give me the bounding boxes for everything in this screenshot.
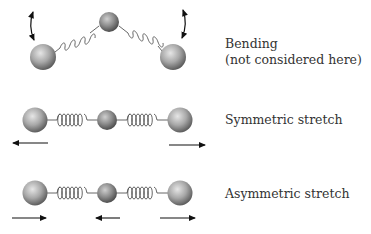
spring-left: [47, 187, 97, 199]
asymmetric-stretch-label: Asymmetric stretch: [225, 186, 349, 202]
bending-label-line1: Bending: [225, 36, 362, 52]
atom-left: [23, 181, 48, 206]
atom-right: [168, 108, 193, 133]
spring-left: [47, 114, 97, 126]
atom-center: [97, 110, 117, 130]
spring-left: [55, 26, 99, 52]
atom-right: [168, 181, 193, 206]
bending-label-line2: (not considered here): [225, 52, 362, 68]
symmetric-stretch-molecule: [13, 108, 205, 146]
spring-right: [117, 187, 168, 199]
atom-center: [99, 12, 119, 32]
atom-left: [23, 108, 48, 133]
symmetric-stretch-label: Symmetric stretch: [225, 112, 343, 128]
atom-center: [97, 183, 117, 203]
atom-left: [30, 44, 56, 70]
atom-right: [160, 44, 186, 70]
spring-right: [119, 26, 163, 51]
asymmetric-stretch-molecule: [12, 181, 195, 219]
curved-double-arrow-left-icon: [31, 12, 34, 40]
spring-right: [117, 114, 168, 126]
bending-label: Bending (not considered here): [225, 36, 362, 68]
bending-mode-molecule: [30, 10, 186, 70]
curved-double-arrow-right-icon: [182, 10, 185, 38]
